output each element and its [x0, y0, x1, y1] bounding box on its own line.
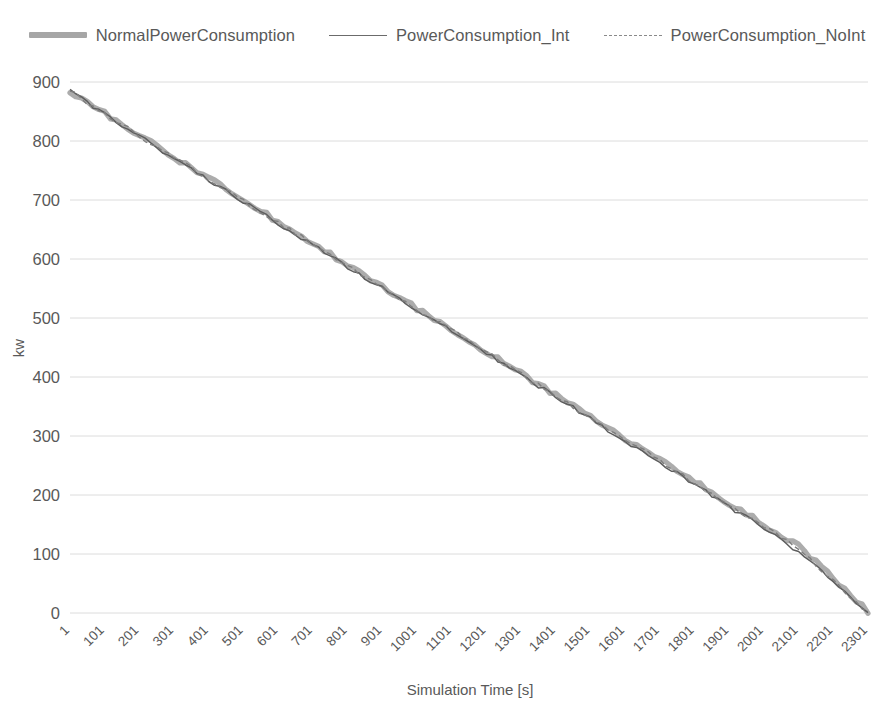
data-series-layer — [70, 89, 868, 613]
x-tick-label: 1901 — [699, 623, 731, 655]
x-tick-label: 801 — [323, 623, 350, 650]
x-axis-title: Simulation Time [s] — [407, 681, 534, 698]
x-tick-label: 501 — [219, 623, 246, 650]
x-tick-label: 1 — [56, 623, 72, 639]
x-tick-label: 1501 — [561, 623, 593, 655]
y-tick-label: 900 — [32, 73, 60, 91]
x-tick-label: 1101 — [423, 623, 454, 654]
y-tick-label: 700 — [32, 191, 60, 209]
x-tick-label: 1001 — [387, 623, 419, 655]
y-tick-label: 500 — [32, 309, 60, 327]
x-tick-label: 1601 — [595, 623, 627, 655]
x-tick-label: 2001 — [734, 623, 766, 655]
x-tick-label: 701 — [288, 623, 315, 650]
power-consumption-line-chart: NormalPowerConsumption PowerConsumption_… — [0, 0, 894, 726]
x-tick-label: 301 — [150, 623, 177, 650]
plot-area: 9008007006005004003002001000 11012013014… — [0, 0, 894, 726]
chart-canvas: 9008007006005004003002001000 11012013014… — [0, 0, 894, 726]
x-tick-label: 901 — [358, 623, 385, 650]
gridlines — [70, 82, 868, 613]
y-tick-label: 0 — [51, 604, 60, 622]
x-tick-label: 101 — [80, 623, 107, 650]
x-tick-label: 401 — [184, 623, 211, 650]
y-tick-label: 800 — [32, 132, 60, 150]
x-tick-label: 1401 — [526, 623, 558, 655]
y-tick-label: 400 — [32, 368, 60, 386]
y-axis-title: kw — [10, 339, 27, 358]
y-tick-label: 100 — [32, 545, 60, 563]
x-tick-label: 2301 — [838, 623, 870, 655]
x-tick-label: 1301 — [491, 623, 523, 655]
y-tick-label: 600 — [32, 250, 60, 268]
y-tick-label: 200 — [32, 486, 60, 504]
x-tick-label: 1801 — [665, 623, 697, 655]
y-tick-label: 300 — [32, 427, 60, 445]
x-tick-label: 1201 — [457, 623, 489, 655]
x-tick-label: 2201 — [804, 623, 836, 655]
x-tick-label: 201 — [115, 623, 142, 650]
x-tick-label: 2101 — [769, 623, 801, 655]
series-line-normalpowerconsumption — [70, 93, 868, 614]
y-axis-tick-labels: 9008007006005004003002001000 — [32, 73, 60, 622]
x-tick-label: 1701 — [630, 623, 662, 655]
x-axis-tick-labels: 1101201301401501601701801901100111011201… — [56, 623, 870, 655]
x-tick-label: 601 — [254, 623, 281, 650]
